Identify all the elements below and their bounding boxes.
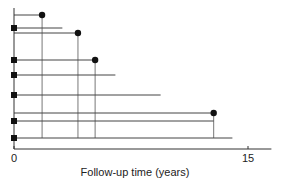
event-marker	[210, 110, 216, 116]
square-marker	[11, 57, 17, 63]
square-marker	[11, 25, 17, 31]
x-axis-label: Follow-up time (years)	[81, 166, 190, 178]
subject-lines	[14, 15, 232, 138]
follow-up-chart: 015 Follow-up time (years)	[0, 0, 282, 185]
square-marker	[11, 135, 17, 141]
square-marker	[11, 118, 17, 124]
x-tick-label: 15	[242, 152, 254, 164]
square-marker	[11, 72, 17, 78]
event-marker	[92, 57, 98, 63]
square-marker	[11, 92, 17, 98]
event-marker	[75, 30, 81, 36]
x-tick-label: 0	[11, 152, 17, 164]
event-marker	[39, 12, 45, 18]
